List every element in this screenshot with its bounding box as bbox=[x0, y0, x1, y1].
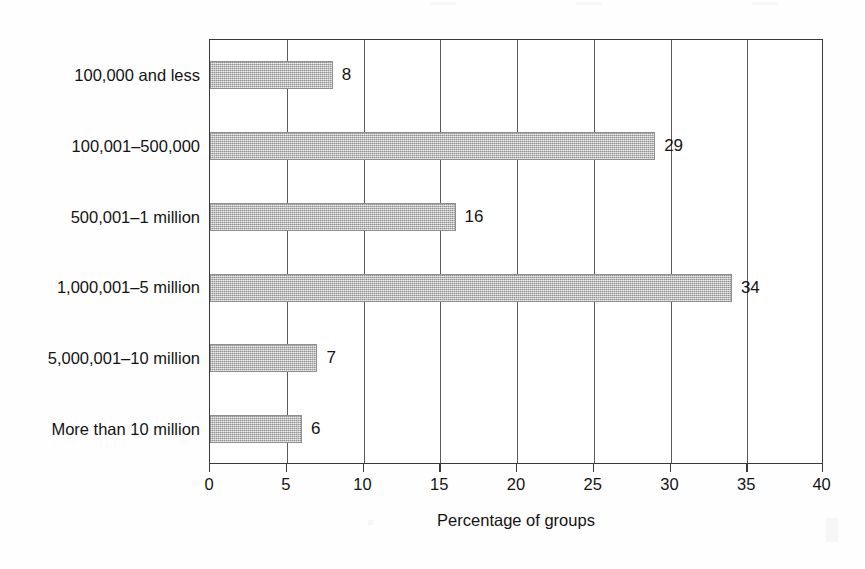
bar bbox=[210, 132, 655, 160]
bar-value-label: 7 bbox=[317, 344, 335, 372]
bar-value-label: 6 bbox=[302, 415, 320, 443]
tick-mark bbox=[286, 464, 287, 472]
x-tick-label: 30 bbox=[660, 476, 678, 493]
x-tick-label: 40 bbox=[812, 476, 830, 493]
bar-value-label: 34 bbox=[732, 274, 760, 302]
x-tick-label: 20 bbox=[507, 476, 525, 493]
x-axis-title: Percentage of groups bbox=[209, 511, 823, 530]
scan-artifact bbox=[576, 2, 602, 5]
scan-artifact bbox=[430, 2, 456, 5]
y-axis-label: 100,001–500,000 bbox=[0, 138, 200, 155]
y-axis-label: 5,000,001–10 million bbox=[0, 350, 200, 367]
x-tick-label: 10 bbox=[353, 476, 371, 493]
tick-mark bbox=[593, 464, 594, 472]
y-axis-label: 1,000,001–5 million bbox=[0, 279, 200, 296]
x-tick-label: 0 bbox=[204, 476, 213, 493]
x-tick-label: 25 bbox=[584, 476, 602, 493]
x-tick-label: 15 bbox=[430, 476, 448, 493]
tick-mark bbox=[516, 464, 517, 472]
bar bbox=[210, 344, 317, 372]
bar bbox=[210, 61, 333, 89]
bar-value-label: 29 bbox=[655, 132, 683, 160]
tick-mark bbox=[209, 464, 210, 472]
bar-row: 8 bbox=[210, 40, 822, 111]
bar bbox=[210, 203, 456, 231]
scan-artifact bbox=[752, 2, 778, 5]
y-axis-label: 500,001–1 million bbox=[0, 209, 200, 226]
y-axis-category-labels: 100,000 and less 100,001–500,000 500,001… bbox=[0, 39, 200, 464]
bar-row: 7 bbox=[210, 323, 822, 394]
bar-value-label: 8 bbox=[333, 61, 351, 89]
x-tick-label: 35 bbox=[737, 476, 755, 493]
bar-value-label: 16 bbox=[456, 203, 484, 231]
tick-mark bbox=[822, 464, 823, 472]
tick-mark bbox=[746, 464, 747, 472]
bar-row: 6 bbox=[210, 394, 822, 465]
tick-mark bbox=[439, 464, 440, 472]
scan-artifact bbox=[826, 518, 838, 542]
bar-row: 34 bbox=[210, 253, 822, 324]
x-tick-label: 5 bbox=[281, 476, 290, 493]
y-axis-label: More than 10 million bbox=[0, 421, 200, 438]
bar-chart-figure: 100,000 and less 100,001–500,000 500,001… bbox=[0, 0, 865, 569]
plot-area: 8 29 16 34 7 6 bbox=[209, 39, 823, 464]
tick-mark bbox=[670, 464, 671, 472]
x-axis-tick-labels: 0 5 10 15 20 25 30 35 40 bbox=[209, 476, 823, 500]
bar bbox=[210, 415, 302, 443]
tick-mark bbox=[363, 464, 364, 472]
bar bbox=[210, 274, 732, 302]
bar-row: 16 bbox=[210, 182, 822, 253]
bar-row: 29 bbox=[210, 111, 822, 182]
y-axis-label: 100,000 and less bbox=[0, 67, 200, 84]
x-axis-tick-marks bbox=[209, 464, 823, 472]
